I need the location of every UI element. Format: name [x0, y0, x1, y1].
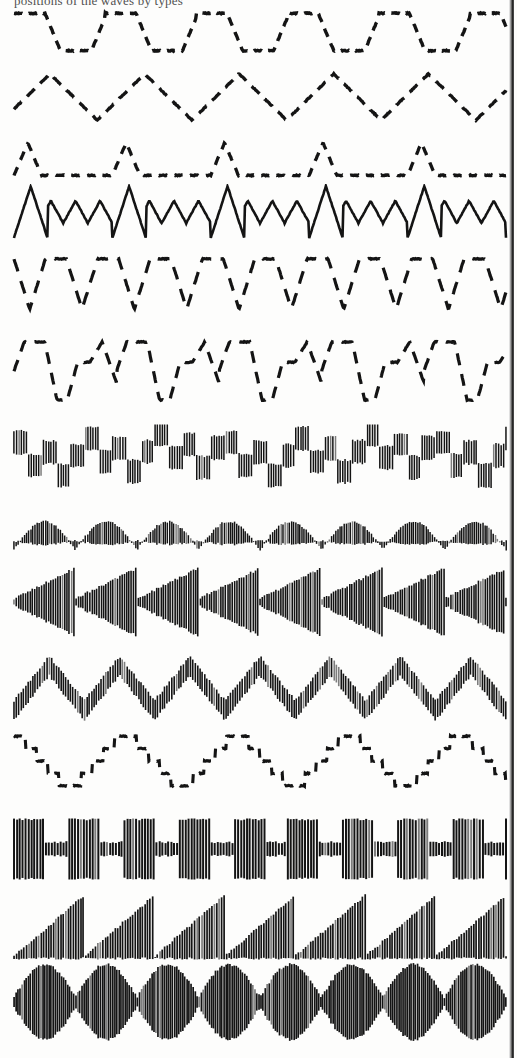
waveform-trace-13 [0, 888, 517, 960]
waveform-trace-12 [0, 818, 517, 880]
waveform-trace-4 [0, 184, 517, 240]
waveform-trace-3 [0, 140, 517, 178]
scan-gutter-shadow [509, 0, 514, 1058]
waveform-trace-10 [0, 652, 517, 724]
waveform-plate: positions of the waves by types [0, 0, 517, 1058]
waveform-trace-14 [0, 962, 517, 1042]
waveform-trace-11 [0, 730, 517, 792]
waveform-trace-9 [0, 566, 517, 638]
waveform-trace-8 [0, 502, 517, 564]
waveform-trace-2 [0, 68, 517, 126]
waveform-trace-6 [0, 338, 517, 404]
waveform-trace-5 [0, 254, 517, 314]
waveform-row-stack [0, 0, 517, 1058]
waveform-trace-1 [0, 8, 517, 56]
waveform-trace-7 [0, 424, 517, 490]
